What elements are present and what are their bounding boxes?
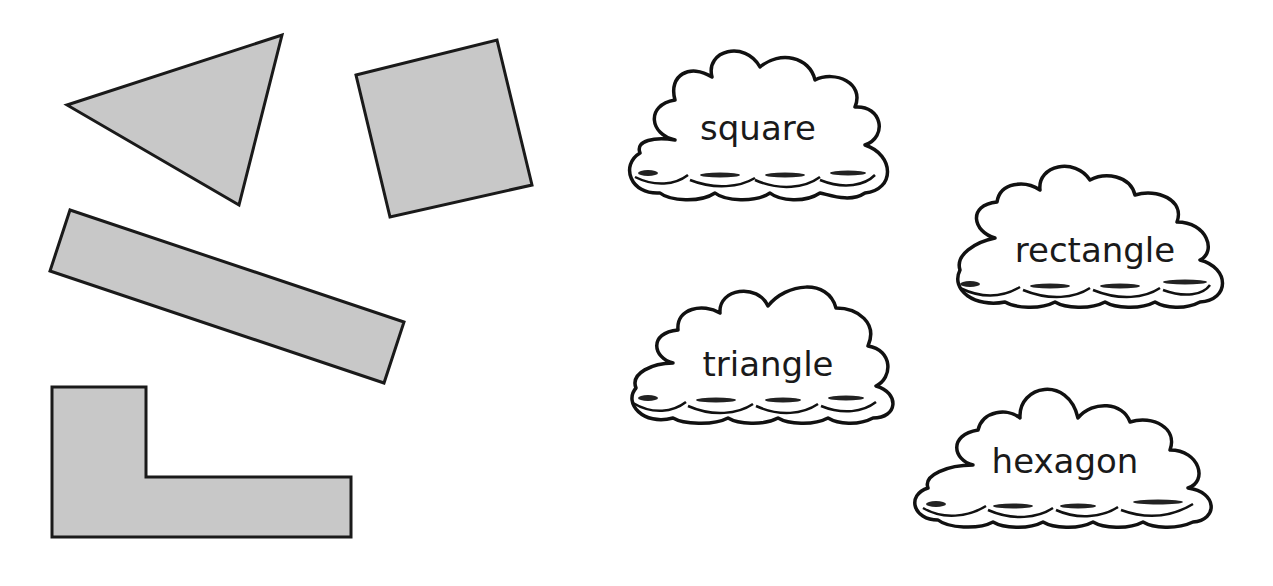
rectangle-shape[interactable] — [50, 210, 404, 383]
word-cloud-square[interactable]: square — [630, 51, 888, 200]
word-cloud-rectangle[interactable]: rectangle — [958, 166, 1223, 307]
triangle-shape[interactable] — [67, 35, 282, 205]
cloud-label: square — [700, 108, 816, 148]
cloud-label: rectangle — [1015, 230, 1176, 270]
word-cloud-triangle[interactable]: triangle — [632, 287, 893, 423]
l-shape[interactable] — [52, 387, 351, 537]
word-cloud-hexagon[interactable]: hexagon — [915, 389, 1211, 527]
cloud-label: triangle — [702, 344, 833, 384]
cloud-label: hexagon — [992, 441, 1139, 481]
square-shape[interactable] — [356, 40, 532, 217]
shape-matching-worksheet: square rectangle triangle hexagon — [0, 0, 1273, 586]
